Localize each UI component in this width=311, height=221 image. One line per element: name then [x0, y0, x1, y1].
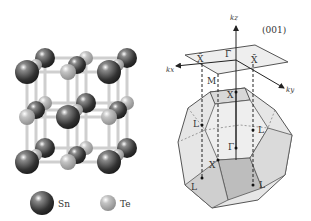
m-label: M: [207, 76, 216, 86]
ky-label: ky: [286, 86, 295, 94]
te-legend-label: Te: [120, 199, 131, 209]
gamma-label: Γ: [228, 142, 234, 152]
sn-legend-swatch: [30, 191, 54, 215]
l-label-2: L: [258, 125, 264, 135]
figure-canvas: Sn Te: [0, 0, 311, 221]
te-legend-swatch: [100, 195, 116, 211]
kx-label: kx: [166, 66, 174, 74]
x-top-label: X: [227, 90, 234, 100]
sn-legend-label: Sn: [58, 199, 70, 209]
x-bar-left-label: X̄: [197, 53, 204, 64]
x-bottom-label: X: [209, 160, 216, 170]
l-label-4: L: [259, 180, 265, 190]
gamma-bar-label: Γ̄: [225, 49, 231, 59]
l-label-3: L: [191, 182, 197, 192]
x-bar-right-label: X̄: [251, 54, 258, 65]
l-label-1: L: [193, 119, 199, 129]
legend: Sn Te: [30, 191, 131, 215]
brillouin-zone: kz (001) kx ky Γ̄ X̄ X̄ M X Γ X L L L L: [166, 14, 295, 208]
surface-label: (001): [262, 25, 286, 35]
kz-label: kz: [230, 14, 238, 22]
crystal-structure: [15, 48, 137, 174]
